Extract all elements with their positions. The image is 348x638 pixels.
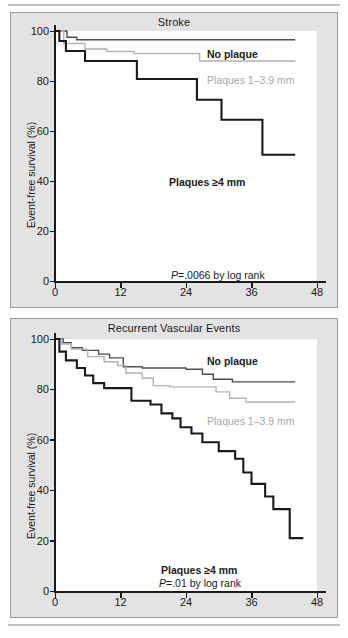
- x-tick-mark-1-12: [120, 593, 122, 598]
- y-tick-label-1-40: 40: [23, 484, 49, 496]
- x-tick-mark-0-0: [55, 283, 57, 288]
- figure-container: Stroke Event-free survival (%) 020406080…: [0, 0, 348, 638]
- x-tick-mark-0-12: [120, 283, 122, 288]
- y-tick-mark-0-20: [50, 231, 55, 233]
- y-tick-mark-1-40: [50, 490, 55, 492]
- y-tick-label-0-60: 60: [23, 125, 49, 137]
- curve-label-no-plaque-recurrent: No plaque: [207, 355, 258, 367]
- bottom-divider-rule: [8, 624, 340, 626]
- curve-label-no-plaque-stroke: No plaque: [207, 48, 258, 60]
- pvalue-recurrent: P=.01 by log rank: [159, 577, 241, 589]
- y-tick-label-0-40: 40: [23, 175, 49, 187]
- pvalue-text-recurrent: =.01 by log rank: [166, 577, 241, 589]
- y-tick-mark-1-0: [50, 591, 55, 593]
- curve-plaques-1-3-9-mm: [55, 31, 295, 61]
- panel-stroke: Stroke Event-free survival (%) 020406080…: [10, 12, 338, 308]
- y-tick-label-0-20: 20: [23, 225, 49, 237]
- y-tick-mark-0-80: [50, 81, 55, 83]
- y-tick-mark-1-60: [50, 439, 55, 441]
- y-tick-label-0-80: 80: [23, 75, 49, 87]
- panel-title-recurrent: Recurrent Vascular Events: [11, 322, 337, 334]
- x-axis-line-0: [54, 281, 326, 283]
- x-axis-line-1: [54, 591, 326, 593]
- x-tick-mark-1-36: [251, 593, 253, 598]
- curve-label-plaques-small-stroke: Plaques 1–3.9 mm: [207, 74, 295, 86]
- curve-no-plaque: [55, 31, 295, 40]
- curve-plaques-4-mm: [55, 339, 303, 538]
- x-tick-mark-1-24: [186, 593, 188, 598]
- y-axis-line-1: [54, 333, 56, 593]
- y-tick-mark-1-20: [50, 540, 55, 542]
- pvalue-symbol-stroke: P: [171, 269, 178, 281]
- y-tick-mark-1-80: [50, 389, 55, 391]
- panel-recurrent-vascular-events: Recurrent Vascular Events Event-free sur…: [10, 318, 338, 618]
- x-tick-mark-0-36: [251, 283, 253, 288]
- y-tick-label-1-80: 80: [23, 383, 49, 395]
- curve-label-plaques-large-stroke: Plaques ≥4 mm: [169, 176, 245, 188]
- y-tick-mark-0-100: [50, 31, 55, 33]
- x-tick-mark-0-24: [186, 283, 188, 288]
- curve-label-plaques-small-recurrent: Plaques 1–3.9 mm: [207, 415, 295, 427]
- pvalue-symbol-recurrent: P: [159, 577, 166, 589]
- pvalue-text-stroke: =.0066 by log rank: [178, 269, 265, 281]
- y-tick-label-1-60: 60: [23, 434, 49, 446]
- curve-label-plaques-large-recurrent: Plaques ≥4 mm: [161, 564, 237, 576]
- panel-title-stroke: Stroke: [11, 16, 337, 28]
- y-tick-mark-0-40: [50, 181, 55, 183]
- y-tick-label-1-20: 20: [23, 535, 49, 547]
- y-tick-mark-1-100: [50, 339, 55, 341]
- y-tick-label-1-100: 100: [23, 333, 49, 345]
- plot-area-stroke: [55, 31, 317, 281]
- x-tick-mark-1-0: [55, 593, 57, 598]
- curves-recurrent: [55, 339, 317, 591]
- curves-stroke: [55, 31, 317, 281]
- top-divider-rule: [8, 4, 340, 6]
- plot-area-recurrent: [55, 339, 317, 591]
- curve-plaques-1-3-9-mm: [55, 339, 295, 402]
- y-tick-mark-0-60: [50, 131, 55, 133]
- y-tick-label-0-100: 100: [23, 25, 49, 37]
- y-tick-mark-0-0: [50, 281, 55, 283]
- x-tick-mark-0-48: [317, 283, 319, 288]
- y-axis-line-0: [54, 25, 56, 283]
- pvalue-stroke: P=.0066 by log rank: [171, 269, 265, 281]
- x-tick-mark-1-48: [317, 593, 319, 598]
